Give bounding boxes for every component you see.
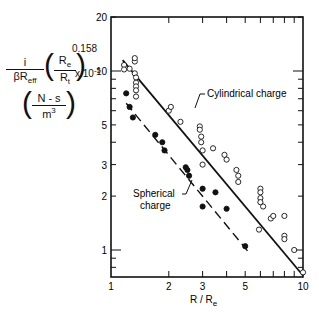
y-title-fraction: i βReff <box>6 56 44 85</box>
x-tick-label: 1 <box>108 281 114 292</box>
y-tick-label: 5 <box>101 120 107 131</box>
y-tick-label: 1 <box>101 245 107 256</box>
units-denominator: m3 <box>32 106 66 120</box>
cylindrical-data-point <box>261 204 266 209</box>
y-title-units: N - s m3 <box>32 92 66 120</box>
cylindrical-data-point <box>258 190 263 195</box>
cylindrical-charge-label: Cylindrical charge <box>207 88 287 99</box>
cylindrical-data-point <box>199 140 204 145</box>
spherical-data-point <box>153 132 158 137</box>
cylindrical-data-point <box>224 157 229 162</box>
cylindrical-data-point <box>200 148 205 153</box>
left-paren: ( <box>44 48 54 82</box>
spherical-data-point <box>200 204 205 209</box>
cylindrical-leader <box>195 94 205 108</box>
plot-frame <box>111 17 303 277</box>
spherical-data-point <box>200 186 205 191</box>
x-tick-label: 5 <box>242 281 248 292</box>
spherical-charge-label-1: Spherical <box>133 188 175 199</box>
spherical-data-point <box>124 91 129 96</box>
spherical-data-point <box>185 167 190 172</box>
spherical-data-point <box>127 104 132 109</box>
spherical-data-point <box>162 148 167 153</box>
y-title-scale: x 10-5 <box>75 66 101 79</box>
cylindrical-data-point <box>133 94 138 99</box>
y-tick-label: 2 <box>101 191 107 202</box>
cylindrical-data-point <box>271 213 276 218</box>
spherical-data-point <box>224 206 229 211</box>
annotations: Cylindrical charge Spherical charge R / … <box>133 88 287 308</box>
x-tick-label: 10 <box>297 281 309 292</box>
units-numerator: N - s <box>32 92 66 106</box>
cylindrical-data-point <box>282 237 287 242</box>
cylindrical-data-point <box>282 213 287 218</box>
spherical-data-point <box>160 140 165 145</box>
cylindrical-data-point <box>234 167 239 172</box>
cylindrical-data-point <box>133 88 138 93</box>
cylindrical-data-point <box>236 179 241 184</box>
y-title-exponent: 0.158 <box>72 43 97 54</box>
y-tick-label: 3 <box>101 160 107 171</box>
cylindrical-data-point <box>168 104 173 109</box>
spherical-data-point <box>213 190 218 195</box>
spherical-data-point <box>186 173 191 178</box>
cylindrical-data-point <box>210 146 215 151</box>
units-right-paren: ) <box>66 86 76 120</box>
axis-ticks <box>111 17 303 277</box>
cylindrical-data-point <box>292 247 297 252</box>
cylindrical-data-point <box>121 67 126 72</box>
y-title-numerator: i <box>6 56 44 70</box>
ratio-numerator: Re <box>54 54 76 71</box>
x-tick-label: 3 <box>200 281 206 292</box>
y-title-ratio: Re Rt <box>54 54 76 86</box>
x-tick-label: 2 <box>166 281 172 292</box>
cylindrical-data-point <box>127 66 132 71</box>
y-tick-label: 20 <box>96 12 108 23</box>
cylindrical-data-point <box>200 162 205 167</box>
spherical-charge-label-2: charge <box>140 200 171 211</box>
ratio-denominator: Rt <box>54 71 76 86</box>
cylindrical-data-point <box>199 134 204 139</box>
cylindrical-data-point <box>256 227 261 232</box>
units-left-paren: ( <box>22 86 32 120</box>
y-title-denominator: βReff <box>6 70 44 85</box>
cylindrical-data-point <box>300 270 305 275</box>
spherical-data-point <box>130 115 135 120</box>
cylindrical-data-point <box>236 173 241 178</box>
cylindrical-data-point <box>133 75 138 80</box>
cylindrical-data-point <box>197 127 202 132</box>
cylindrical-data-point <box>132 56 137 61</box>
cylindrical-data-point <box>178 119 183 124</box>
x-axis-title: R / Re <box>190 294 218 308</box>
spherical-data-point <box>243 244 248 249</box>
spherical-charge-fit-line <box>126 103 250 254</box>
